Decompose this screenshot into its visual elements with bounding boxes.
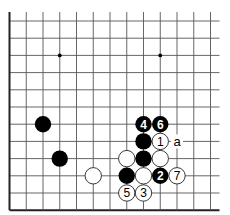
black-stone — [135, 133, 151, 149]
move-number: 2 — [157, 169, 164, 183]
point-labels-layer: a — [171, 134, 183, 149]
black-stone — [135, 150, 151, 166]
black-stone-disc — [135, 150, 151, 166]
white-stone-disc — [135, 168, 151, 184]
move-number: 4 — [140, 118, 147, 132]
point-label: a — [171, 134, 183, 149]
white-stone: 7 — [169, 168, 185, 184]
move-number: 1 — [157, 135, 164, 149]
black-stone: 2 — [152, 168, 168, 184]
white-stone — [119, 150, 135, 166]
move-number: 5 — [123, 186, 130, 200]
move-number: 3 — [140, 186, 147, 200]
white-stone-disc — [85, 168, 101, 184]
black-stone — [52, 150, 68, 166]
black-stone-disc — [35, 116, 51, 132]
star-point — [58, 54, 62, 58]
white-stone-disc — [119, 150, 135, 166]
point-label-text: a — [173, 134, 181, 149]
white-stone — [85, 168, 101, 184]
black-stone: 6 — [152, 116, 168, 132]
black-stone — [35, 116, 51, 132]
black-stone: 4 — [135, 116, 151, 132]
star-point — [158, 54, 162, 58]
black-stone-disc — [119, 168, 135, 184]
black-stone-disc — [52, 150, 68, 166]
go-board-diagram: 4612753 a — [0, 0, 230, 215]
move-number: 7 — [174, 169, 181, 183]
white-stone: 5 — [119, 185, 135, 201]
white-stone: 3 — [135, 185, 151, 201]
move-number: 6 — [157, 118, 164, 132]
white-stone — [135, 168, 151, 184]
white-stone — [152, 150, 168, 166]
black-stone — [119, 168, 135, 184]
white-stone: 1 — [152, 133, 168, 149]
black-stone-disc — [135, 133, 151, 149]
board-grid — [10, 12, 220, 210]
white-stone-disc — [152, 150, 168, 166]
